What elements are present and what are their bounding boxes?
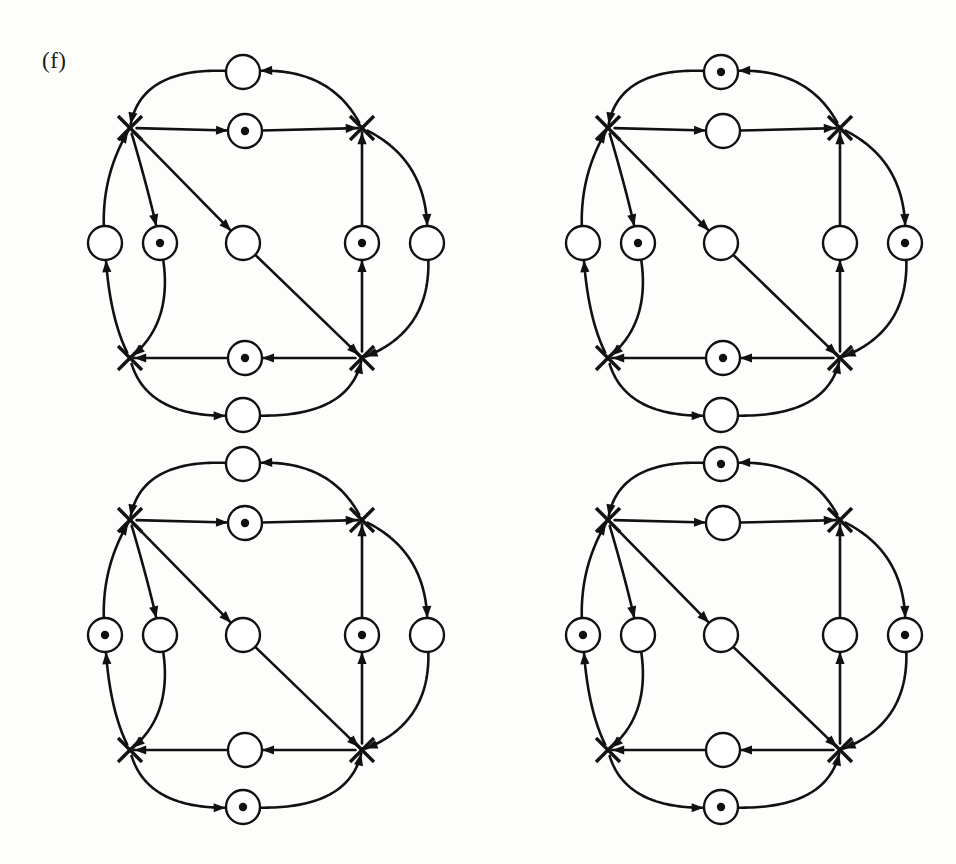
arc-arrowhead (260, 458, 272, 467)
arc-arrowhead (422, 214, 431, 226)
place-node[interactable] (226, 618, 260, 652)
place-circle (143, 618, 177, 652)
place-circle (226, 398, 260, 432)
place-node[interactable] (228, 341, 262, 375)
place-circle (410, 618, 444, 652)
place-node[interactable] (704, 226, 738, 260)
arc-place-top-to-transition-left (131, 463, 226, 517)
arc-place-left-outer-to-transition-left (582, 523, 606, 618)
arc-arrowhead (738, 66, 750, 75)
arc-transition-left-to-place-left-inner (132, 134, 157, 226)
arc-place-center-to-transition-bottom-right (255, 647, 359, 747)
arc-transition-bottom-left-to-place-bottom (610, 364, 704, 416)
place-circle (621, 618, 655, 652)
arc-place-bottom-to-transition-bottom-right (738, 362, 839, 416)
arc-transition-right-to-place-top (260, 71, 359, 123)
arc-arrowhead (260, 66, 272, 75)
arc-place-left-outer-to-transition-left (582, 131, 606, 226)
place-node[interactable] (706, 114, 740, 148)
arc-place-left-outer-to-transition-left (104, 523, 128, 618)
place-node[interactable] (888, 226, 922, 260)
place-node[interactable] (226, 447, 260, 481)
arc-transition-right-to-place-top (738, 71, 837, 123)
place-node[interactable] (228, 733, 262, 767)
place-node[interactable] (410, 618, 444, 652)
place-token (579, 631, 587, 639)
place-node[interactable] (704, 55, 738, 89)
arc-transition-left-to-place-center (613, 525, 709, 623)
petri-net-panel-2 (566, 55, 922, 432)
arc-place-bottom-to-transition-bottom-right (260, 754, 361, 808)
arc-arrowhead (357, 524, 366, 536)
arc-arrowhead (694, 518, 706, 527)
place-node[interactable] (410, 226, 444, 260)
place-circle (823, 618, 857, 652)
place-token (634, 239, 642, 247)
arc-place-top-to-transition-left (609, 463, 704, 517)
place-circle (704, 618, 738, 652)
place-circle (228, 733, 262, 767)
arc-transition-left-to-place-left-inner (610, 134, 635, 226)
arc-place-upper-mid-to-transition-right (262, 520, 358, 522)
place-node[interactable] (143, 226, 177, 260)
place-node[interactable] (88, 618, 122, 652)
place-node[interactable] (888, 618, 922, 652)
place-node[interactable] (228, 506, 262, 540)
arc-transition-left-to-place-center (135, 525, 231, 623)
place-circle (226, 447, 260, 481)
arc-transition-left-to-place-left-inner (610, 526, 635, 618)
arc-place-right-outer-to-transition-bottom-right (844, 652, 907, 748)
place-node[interactable] (143, 618, 177, 652)
place-node[interactable] (345, 618, 379, 652)
arc-arrowhead (900, 606, 909, 618)
arc-place-right-outer-to-transition-bottom-right (366, 652, 429, 748)
place-node[interactable] (228, 114, 262, 148)
place-node[interactable] (226, 55, 260, 89)
place-node[interactable] (823, 618, 857, 652)
place-node[interactable] (566, 226, 600, 260)
arc-arrowhead (262, 353, 274, 362)
arc-arrowhead (214, 411, 226, 420)
place-node[interactable] (226, 226, 260, 260)
place-node[interactable] (345, 226, 379, 260)
place-token (717, 68, 725, 76)
arc-arrowhead (612, 353, 624, 362)
arc-place-left-inner-to-transition-bottom-left (133, 652, 165, 748)
arc-transition-bottom-left-to-place-bottom (132, 364, 226, 416)
place-token (358, 631, 366, 639)
place-node[interactable] (704, 790, 738, 824)
place-node[interactable] (621, 618, 655, 652)
arc-transition-left-to-place-center (135, 133, 231, 231)
place-node[interactable] (706, 341, 740, 375)
place-node[interactable] (226, 790, 260, 824)
arc-transition-left-to-place-upper-mid (137, 520, 228, 522)
place-node[interactable] (566, 618, 600, 652)
place-node[interactable] (88, 226, 122, 260)
petri-net-canvas (0, 0, 956, 864)
arc-transition-right-to-place-right-outer (367, 523, 427, 618)
place-node[interactable] (704, 618, 738, 652)
arc-transition-bottom-left-to-place-left-outer (584, 652, 605, 744)
arc-place-upper-mid-to-transition-right (262, 128, 358, 130)
arc-place-center-to-transition-bottom-right (733, 647, 837, 747)
place-node[interactable] (823, 226, 857, 260)
arc-transition-right-to-place-top (738, 463, 837, 515)
place-token (901, 631, 909, 639)
place-node[interactable] (621, 226, 655, 260)
petri-net-panel-4 (566, 447, 922, 824)
place-token (901, 239, 909, 247)
place-node[interactable] (706, 733, 740, 767)
place-node[interactable] (704, 447, 738, 481)
place-circle (706, 733, 740, 767)
place-node[interactable] (226, 398, 260, 432)
place-node[interactable] (706, 506, 740, 540)
arc-arrowhead (134, 745, 146, 754)
place-circle (88, 226, 122, 260)
arc-transition-bottom-left-to-place-left-outer (584, 260, 605, 352)
arc-arrowhead (694, 126, 706, 135)
arc-arrowhead (738, 458, 750, 467)
place-node[interactable] (704, 398, 738, 432)
arc-transition-left-to-place-upper-mid (615, 128, 706, 130)
arc-place-left-inner-to-transition-bottom-left (611, 652, 643, 748)
arc-place-bottom-to-transition-bottom-right (260, 362, 361, 416)
